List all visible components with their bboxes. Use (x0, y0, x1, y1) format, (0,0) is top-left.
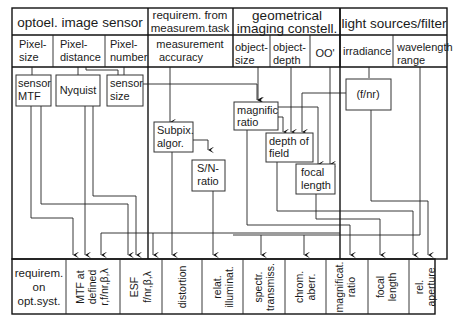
svg-text:size: size (110, 90, 130, 102)
footer-col-rel-2: aperture (425, 267, 437, 306)
sub-object-depth-2: depth (273, 54, 301, 66)
svg-text:depth of: depth of (269, 135, 310, 147)
group-light-sources: light sources/filter (341, 16, 447, 31)
svg-text:sensor: sensor (18, 77, 51, 89)
sub-pixel-size-2: size (19, 51, 39, 63)
node-focal-length: focal length (296, 164, 335, 194)
footer-col-mtf-2: defined (86, 270, 98, 305)
sub-irradiance: irradiance (343, 45, 391, 57)
footer-row-label-1: requirem. (15, 267, 64, 279)
node-depth-of-field: depth of field (266, 133, 313, 162)
sub-pixel-number-2: number (110, 51, 148, 63)
node-sensor-mtf: sensor MTF (16, 75, 51, 106)
footer-col-mtf-3: r,f/nr,β,λ (98, 267, 110, 305)
footer-row: requirem. on opt.syst. MTF at defined r,… (12, 259, 437, 314)
node-sn-ratio: S/N- ratio (192, 160, 225, 191)
sub-measurement-accuracy-2: accuracy (159, 51, 204, 63)
requirements-diagram: optoel. image sensor requirem. from meas… (0, 0, 459, 327)
footer-col-esf-2: f/nr,β,λ (141, 270, 153, 302)
svg-text:Subpix.: Subpix. (157, 124, 194, 136)
footer-row-label-2: on (33, 281, 46, 293)
footer-col-relat-2: illuminat. (223, 266, 235, 307)
sub-wavelength-1: wavelength (396, 41, 453, 53)
sub-oo-prime: OO' (315, 47, 334, 59)
group-optoel-image-sensor: optoel. image sensor (17, 15, 143, 30)
svg-text:S/N-: S/N- (197, 162, 219, 174)
footer-col-magnificat-2: ratio (345, 277, 357, 298)
svg-text:ratio: ratio (197, 175, 218, 187)
footer-col-relat-1: relat. (211, 275, 223, 298)
sub-measurement-accuracy-1: measurement (156, 38, 223, 50)
sub-object-size-2: size (235, 54, 255, 66)
sub-wavelength-2: range (397, 54, 425, 66)
group-requirem-line1: requirem. from (153, 9, 228, 21)
footer-col-chrom-1: chrom. (293, 271, 305, 303)
sub-object-depth-1: object- (273, 41, 306, 53)
node-subpix-algor: Subpix. algor. (154, 122, 194, 152)
node-magnific-ratio: magnific ratio (234, 102, 278, 130)
footer-col-focal-1: focal (374, 276, 386, 298)
footer-col-spectr-1: spectr. (252, 272, 264, 303)
footer-col-chrom-2: aberr. (305, 274, 317, 301)
svg-text:ratio: ratio (237, 116, 258, 128)
svg-text:focal: focal (301, 166, 324, 178)
subheaders: Pixel- size Pixel- distance Pixel- numbe… (19, 38, 453, 66)
footer-row-label-3: opt.syst. (18, 295, 61, 307)
sub-pixel-distance-1: Pixel- (60, 38, 88, 50)
footer-col-magnificat-1: magnificat. (333, 262, 345, 313)
footer-col-distortion: distortion (176, 266, 188, 309)
svg-text:field: field (269, 147, 289, 159)
node-nyquist: Nyquist (56, 75, 100, 106)
svg-text:length: length (301, 179, 331, 191)
svg-text:MTF: MTF (18, 90, 41, 102)
svg-text:algor.: algor. (157, 137, 184, 149)
sub-object-size-1: object- (235, 41, 268, 53)
node-f-nr: (f/nr) (346, 79, 391, 110)
svg-text:magnific: magnific (237, 104, 278, 116)
svg-text:(f/nr): (f/nr) (356, 88, 379, 100)
sub-pixel-size-1: Pixel- (19, 38, 47, 50)
svg-text:sensor: sensor (110, 77, 143, 89)
group-geometrical-line2: imaging constell. (237, 21, 338, 36)
footer-col-focal-2: length (386, 273, 398, 302)
sub-pixel-distance-2: distance (60, 51, 101, 63)
header-groups: optoel. image sensor requirem. from meas… (17, 8, 447, 36)
footer-col-esf-1: ESF (128, 277, 140, 297)
footer-col-spectr-2: transmiss. (264, 263, 276, 311)
group-requirem-line2: measurem.task (151, 22, 230, 34)
footer-col-rel-1: rel. (413, 280, 425, 295)
node-sensor-size: sensor size (107, 75, 143, 106)
sub-pixel-number-1: Pixel- (110, 38, 138, 50)
footer-col-mtf-1: MTF at (74, 270, 86, 303)
svg-text:Nyquist: Nyquist (60, 84, 97, 96)
